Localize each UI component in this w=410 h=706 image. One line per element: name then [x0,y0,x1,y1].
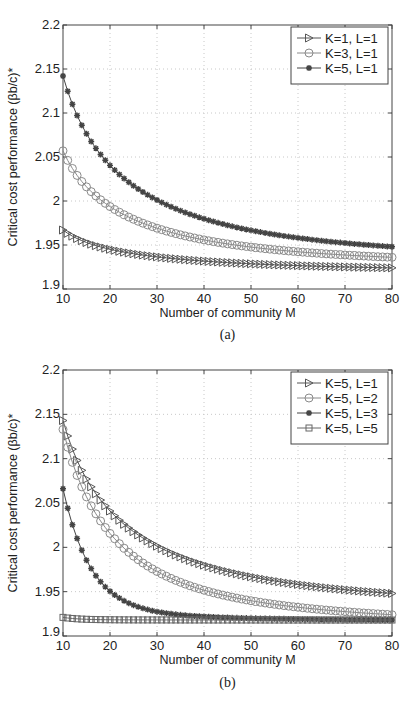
y-tick-label: 2.15 [35,61,60,76]
star-marker [239,225,245,231]
marker-star [145,607,151,613]
x-tick-label: 60 [291,291,305,306]
x-tick-label: 60 [291,638,305,653]
star-marker [112,167,118,173]
star-marker [69,101,75,107]
star-marker [60,486,66,492]
legend-label: K=5, L=3 [325,406,378,421]
marker-star [74,536,80,542]
star-marker [225,222,231,228]
star-marker [253,228,259,234]
legend-label: K=5, L=1 [325,61,378,76]
marker-star [159,609,165,615]
y-tick-label: 1.9 [42,624,60,639]
y-tick-label: 2 [53,193,60,208]
star-marker [131,183,137,189]
star-marker [65,88,71,94]
star-marker [98,152,104,158]
star-marker [154,609,160,615]
star-marker [389,244,395,250]
x-tick-label: 20 [103,291,117,306]
star-marker [93,145,99,151]
star-marker [84,131,90,137]
star-marker [98,579,104,585]
star-marker [69,522,75,528]
y-axis-label: Critical cost performance (βb/c)* [6,413,20,592]
panel-caption: (a) [220,327,236,343]
marker-star [74,112,80,118]
star-marker [116,171,122,177]
marker-star [65,88,71,94]
marker-star [234,224,240,230]
marker-star [248,227,254,233]
marker-star [149,608,155,614]
x-tick-label: 70 [338,291,352,306]
marker-star [306,410,312,416]
marker-star [126,179,132,185]
marker-star [389,244,395,250]
marker-star [93,573,99,579]
marker-star [215,220,221,226]
marker-star [102,157,108,163]
star-marker [74,536,80,542]
marker-star [257,229,263,235]
star-marker [257,229,263,235]
star-marker [276,232,282,238]
marker-star [276,232,282,238]
y-tick-label: 1.9 [42,277,60,292]
star-marker [102,584,108,590]
marker-star [220,221,226,227]
star-marker [206,217,212,223]
x-tick-label: 30 [150,638,164,653]
x-tick-label: 30 [150,291,164,306]
y-tick-label: 2.05 [35,149,60,164]
star-marker [88,138,94,144]
star-marker [159,609,165,615]
series-line [63,76,392,247]
legend: K=1, L=1K=3, L=1K=5, L=1 [291,27,388,84]
marker-star [98,579,104,585]
marker-star [210,219,216,225]
star-marker [79,547,85,553]
marker-star [253,228,259,234]
marker-star [229,223,235,229]
x-tick-label: 10 [56,291,70,306]
y-tick-label: 2.2 [42,362,60,377]
x-tick-label: 20 [103,638,117,653]
legend-label: K=1, L=1 [325,31,378,46]
star-marker [229,223,235,229]
x-tick-label: 80 [385,638,399,653]
marker-star [79,122,85,128]
marker-star [112,167,118,173]
star-marker [272,231,278,237]
marker-star [107,162,113,168]
star-marker [135,186,141,192]
legend-label: K=5, L=2 [325,391,378,406]
marker-star [272,231,278,237]
legend-label: K=5, L=1 [325,376,378,391]
star-marker [112,592,118,598]
marker-star [60,73,66,79]
star-marker [220,221,226,227]
marker-star [102,584,108,590]
legend-label: K=5, L=5 [325,421,378,436]
y-tick-label: 2.1 [42,105,60,120]
x-tick-label: 50 [244,291,258,306]
legend-label: K=3, L=1 [325,46,378,61]
marker-star [79,547,85,553]
y-tick-label: 2.2 [42,17,60,32]
star-marker [267,231,273,237]
chart-panel-a: 10203040506070801.91.9522.052.12.152.2Nu… [6,17,399,343]
marker-star [140,605,146,611]
marker-star [225,222,231,228]
star-marker [149,608,155,614]
x-axis-label: Number of community M [159,653,295,667]
marker-star [88,566,94,572]
y-tick-label: 2.05 [35,495,60,510]
x-tick-label: 70 [338,638,352,653]
marker-star [135,186,141,192]
marker-star [69,522,75,528]
star-marker [210,219,216,225]
x-tick-label: 10 [56,638,70,653]
star-marker [248,227,254,233]
